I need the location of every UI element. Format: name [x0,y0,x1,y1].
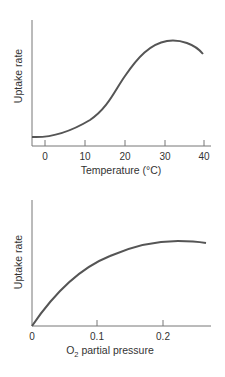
o2-pressure-chart: 0 0.1 0.2 O2 partial pressure Uptake rat… [12,200,211,359]
x-tick-label: 0.2 [156,331,170,342]
figure: 0 10 20 30 40 Temperature (°C) Uptake ra… [0,0,225,377]
temperature-chart: 0 10 20 30 40 Temperature (°C) Uptake ra… [12,20,211,176]
x-tick-label: 30 [159,151,171,162]
uptake-curve-temperature [32,41,203,138]
x-tick-label: 0 [42,151,48,162]
x-tick-label: 20 [119,151,131,162]
x-axis-label: O2 partial pressure [66,344,154,359]
x-tick-label: 10 [79,151,91,162]
x-axis-label: Temperature (°C) [81,164,162,176]
x-tick-label: 0 [29,331,35,342]
x-tick-label: 40 [198,151,210,162]
x-tick-label: 0.1 [90,331,104,342]
x-ticks [97,320,163,326]
x-ticks [45,140,204,146]
x-axis-label-main: O [66,344,74,356]
x-axis-label-rest: partial pressure [79,344,154,356]
y-axis-label: Uptake rate [12,49,24,103]
uptake-curve-o2 [32,241,206,326]
y-axis-label: Uptake rate [12,235,24,289]
